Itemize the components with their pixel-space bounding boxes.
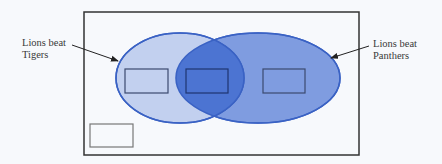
arrow-to-panthers-icon: [331, 46, 369, 58]
venn-canvas: [0, 0, 442, 164]
label-lions-beat-panthers: Lions beat Panthers: [373, 38, 417, 62]
label-line: Lions beat: [373, 38, 417, 50]
arrow-to-tigers-icon: [72, 45, 118, 61]
neither-box[interactable]: [90, 124, 133, 147]
label-line: Panthers: [373, 50, 417, 62]
label-line: Lions beat: [22, 37, 66, 49]
label-lions-beat-tigers: Lions beat Tigers: [22, 37, 66, 61]
venn-diagram: Lions beat Tigers Lions beat Panthers: [0, 0, 442, 164]
label-line: Tigers: [22, 49, 66, 61]
